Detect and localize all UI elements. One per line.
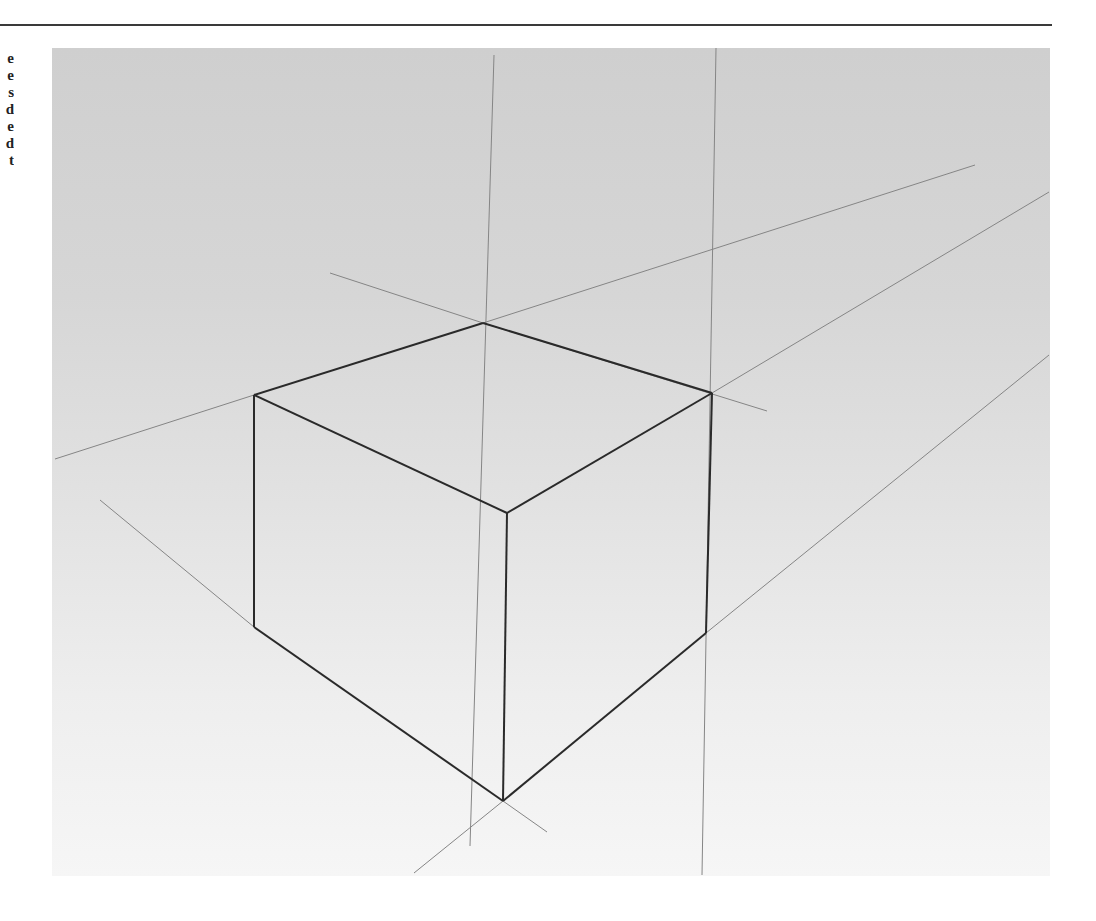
text-fragment: e bbox=[0, 67, 14, 84]
cube-drawing bbox=[52, 48, 1050, 876]
text-fragment: d bbox=[0, 101, 14, 118]
text-fragment: d bbox=[0, 135, 14, 152]
cropped-margin-text: e e s d e d t bbox=[0, 50, 14, 169]
text-fragment: e bbox=[0, 50, 14, 67]
top-rule bbox=[0, 24, 1052, 26]
cube-edges bbox=[254, 323, 712, 801]
construction-lines bbox=[55, 48, 1049, 875]
text-fragment: t bbox=[0, 152, 14, 169]
perspective-cube-figure bbox=[52, 48, 1050, 876]
text-fragment: s bbox=[0, 84, 14, 101]
text-fragment: e bbox=[0, 118, 14, 135]
